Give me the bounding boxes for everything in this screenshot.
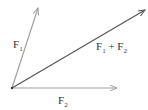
- label-f1: F1: [13, 38, 23, 53]
- label-f2: F2: [58, 94, 68, 109]
- vector-diagram: F1 F2 F1 + F2: [0, 0, 148, 110]
- label-resultant: F1 + F2: [96, 40, 127, 55]
- origin-point: [11, 87, 13, 89]
